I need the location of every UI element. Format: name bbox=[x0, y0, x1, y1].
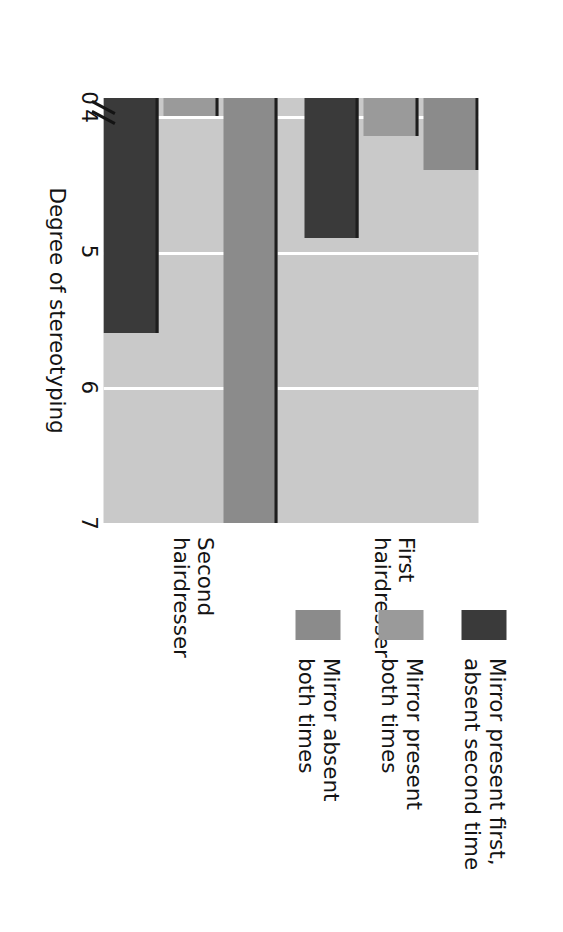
legend-swatch-icon-0 bbox=[461, 610, 506, 640]
bar-group0-series2 bbox=[304, 98, 359, 238]
legend-item-0: Mirror present first, absent second time bbox=[459, 610, 508, 910]
gridline-5 bbox=[103, 252, 478, 255]
legend-swatch-icon-2 bbox=[295, 610, 340, 640]
legend-label-2: Mirror absent both times bbox=[293, 658, 342, 802]
y-axis-tick-7: 7 bbox=[78, 516, 100, 530]
legend-item-1: Mirror present both times bbox=[376, 610, 425, 910]
legend-item-2: Mirror absent both times bbox=[293, 610, 342, 910]
legend-swatch-icon-1 bbox=[378, 610, 423, 640]
gridline-4 bbox=[103, 116, 478, 119]
y-axis-tick-5: 5 bbox=[78, 245, 100, 259]
bar-group1-series2 bbox=[103, 98, 158, 333]
category-label-1: Second hairdresser bbox=[168, 537, 216, 658]
bar-group0-series0 bbox=[423, 98, 478, 170]
gridline-6 bbox=[103, 387, 478, 390]
bar-group1-series0 bbox=[223, 98, 278, 523]
y-axis-ticks: 76540 bbox=[73, 98, 103, 523]
axis-break-icon bbox=[91, 102, 113, 132]
legend-label-0: Mirror present first, absent second time bbox=[459, 658, 508, 870]
y-axis-tick-6: 6 bbox=[78, 380, 100, 394]
bar-chart-figure: Degree of stereotyping 76540 First haird… bbox=[0, 0, 563, 932]
chart-area: Degree of stereotyping 76540 First haird… bbox=[103, 98, 478, 523]
figure-rotation-wrapper: Degree of stereotyping 76540 First haird… bbox=[0, 0, 563, 932]
bar-group1-series1 bbox=[163, 98, 218, 116]
legend: Mirror present first, absent second time… bbox=[259, 610, 508, 910]
y-axis-title: Degree of stereotyping bbox=[41, 98, 69, 523]
legend-label-1: Mirror present both times bbox=[376, 658, 425, 810]
plot-region bbox=[103, 98, 478, 523]
bar-group0-series1 bbox=[363, 98, 418, 136]
